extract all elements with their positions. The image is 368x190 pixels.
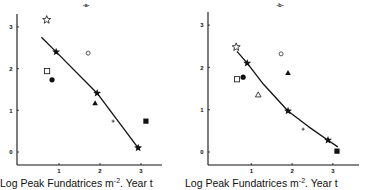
- fit-line: [237, 51, 338, 147]
- triangle-marker-filled: [92, 100, 98, 105]
- x-tick-label: 1: [57, 168, 61, 174]
- plus-marker: [112, 120, 115, 123]
- x-axis-label: Log Peak Fundatrices m-2. Year t: [0, 177, 153, 189]
- y-tick-label: 1: [200, 107, 204, 113]
- triangle-marker-open: [255, 92, 261, 97]
- y-tick-label: 3: [9, 24, 13, 30]
- star-marker-open: [43, 16, 51, 24]
- circle-marker-open: [86, 51, 90, 55]
- x-tick-label: 2: [98, 168, 102, 174]
- y-tick-label: 1: [9, 108, 13, 114]
- circle-marker-open: [279, 52, 283, 56]
- square-marker-open: [234, 77, 239, 82]
- panel-a: -a- 0123123Log Peak Fundatrices m-2. Yea…: [0, 2, 162, 189]
- triangle-marker-filled: [285, 70, 291, 75]
- circle-marker-filled: [49, 77, 54, 82]
- y-tick-label: 2: [9, 66, 13, 72]
- plus-marker: [302, 128, 305, 131]
- x-tick-label: 1: [250, 168, 254, 174]
- y-tick-label: 0: [200, 149, 204, 155]
- y-tick-label: 0: [9, 149, 13, 155]
- y-tick-label: 2: [200, 65, 204, 71]
- chart-canvas: -a- 0123123Log Peak Fundatrices m-2. Yea…: [0, 0, 368, 190]
- figure: -a- 0123123Log Peak Fundatrices m-2. Yea…: [0, 0, 368, 190]
- square-marker-open: [45, 69, 50, 74]
- x-tick-label: 2: [290, 168, 294, 174]
- panel-b: -b- 0123123Log Peak Fundatrices m-2. Yea…: [185, 2, 359, 189]
- panel-title-b: -b-: [276, 2, 283, 8]
- x-tick-label: 3: [139, 168, 143, 174]
- y-tick-label: 3: [200, 22, 204, 28]
- x-axis-label: Log Peak Fundatrices m-2. Year t: [185, 177, 338, 189]
- square-marker-filled: [143, 119, 148, 124]
- star-marker-open: [232, 43, 240, 51]
- square-marker-filled: [334, 149, 339, 154]
- panel-title-a: -a-: [83, 2, 90, 8]
- x-tick-label: 3: [331, 168, 335, 174]
- circle-marker-filled: [241, 75, 246, 80]
